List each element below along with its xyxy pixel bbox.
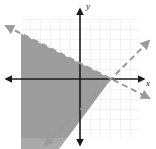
x-axis-label: x bbox=[146, 79, 150, 88]
graph-figure: x y bbox=[0, 0, 156, 149]
y-axis-label: y bbox=[86, 2, 90, 11]
coordinate-plane-svg bbox=[0, 0, 156, 149]
